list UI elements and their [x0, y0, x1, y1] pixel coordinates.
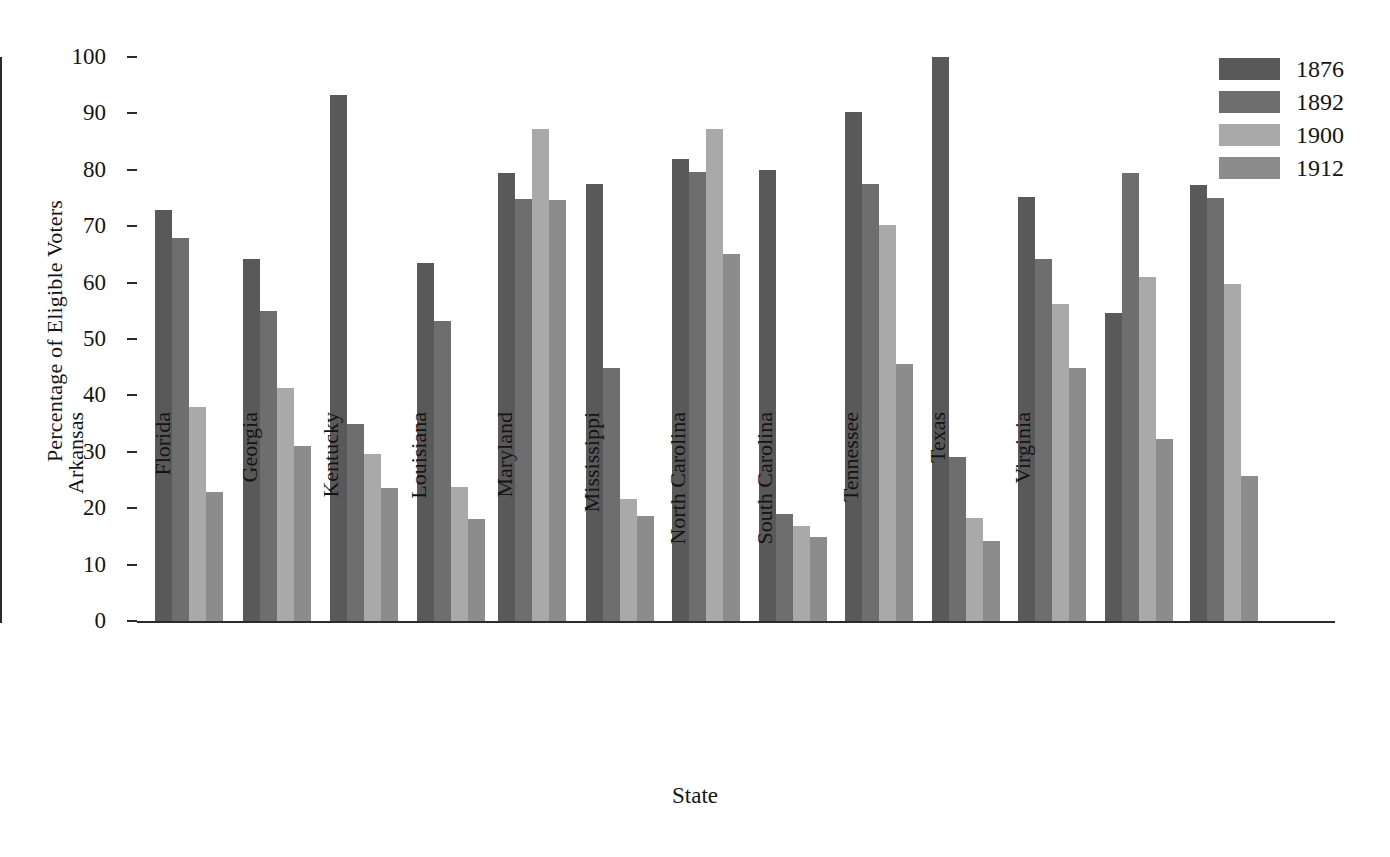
bar-chart-figure: Percentage of Eligible Voters 0102030405… — [0, 0, 1390, 857]
y-tick-mark — [127, 507, 137, 509]
bar — [603, 368, 620, 621]
legend-item: 1900 — [1219, 118, 1344, 151]
bar — [1224, 284, 1241, 621]
x-axis-label: Louisiana — [408, 412, 430, 632]
legend-color-swatch — [1219, 124, 1280, 146]
legend-label: 1900 — [1296, 123, 1344, 147]
bar — [810, 537, 827, 621]
legend-label: 1912 — [1296, 156, 1344, 180]
x-axis-label: Kentucky — [320, 412, 342, 632]
x-axis-label: Arkansas — [65, 412, 87, 632]
bar — [793, 526, 810, 621]
bar — [1156, 439, 1173, 621]
y-tick-label: 80 — [20, 158, 106, 181]
y-tick-label: 70 — [20, 214, 106, 237]
x-axis-label: Georgia — [239, 412, 261, 632]
bar — [1190, 185, 1207, 621]
x-axis-label: Virginia — [1012, 412, 1034, 632]
x-axis-label: Maryland — [494, 412, 516, 632]
bar — [294, 446, 311, 621]
bar-group — [1105, 57, 1173, 621]
bar — [364, 454, 381, 622]
legend-color-swatch — [1219, 157, 1280, 179]
bar — [206, 492, 223, 621]
bar — [532, 129, 549, 621]
y-tick-label: 60 — [20, 271, 106, 294]
x-axis-label: Mississippi — [581, 412, 603, 632]
bar — [689, 172, 706, 621]
bar — [966, 518, 983, 621]
bar — [637, 516, 654, 621]
bar — [896, 364, 913, 621]
y-tick-label: 90 — [20, 101, 106, 124]
y-tick-mark — [127, 564, 137, 566]
bar — [620, 499, 637, 621]
bar — [1139, 277, 1156, 621]
y-tick-mark — [127, 394, 137, 396]
legend-item: 1892 — [1219, 85, 1344, 118]
y-tick-label: 20 — [20, 496, 106, 519]
plot-area — [137, 57, 1335, 621]
y-tick-mark — [127, 282, 137, 284]
bar — [862, 184, 879, 621]
y-tick-label: 100 — [20, 45, 106, 68]
y-tick-mark — [127, 112, 137, 114]
bar — [1105, 313, 1122, 621]
y-tick-label: 10 — [20, 553, 106, 576]
x-axis-label: Tennessee — [840, 412, 862, 632]
bar — [879, 225, 896, 621]
y-tick-mark — [127, 169, 137, 171]
bar — [451, 487, 468, 621]
x-axis-label: Florida — [152, 412, 174, 632]
bar — [189, 407, 206, 621]
x-axis-label: North Carolina — [667, 412, 689, 632]
x-axis-line — [137, 621, 1335, 623]
y-tick-mark — [127, 620, 137, 622]
bar — [1052, 304, 1069, 621]
bar — [1069, 368, 1086, 621]
bar — [776, 514, 793, 621]
bar — [277, 388, 294, 621]
legend-color-swatch — [1219, 91, 1280, 113]
bar — [1035, 259, 1052, 621]
y-axis-line — [0, 57, 2, 623]
bar — [723, 254, 740, 621]
y-tick-label: 0 — [20, 609, 106, 632]
x-axis-title: State — [0, 783, 1390, 809]
y-tick-label: 40 — [20, 383, 106, 406]
bar — [1241, 476, 1258, 621]
legend-label: 1876 — [1296, 57, 1344, 81]
bar — [381, 488, 398, 621]
bar — [983, 541, 1000, 621]
bar — [347, 424, 364, 621]
x-axis-label: Texas — [927, 412, 949, 632]
bar — [1207, 198, 1224, 621]
legend-label: 1892 — [1296, 90, 1344, 114]
legend-item: 1912 — [1219, 151, 1344, 184]
bar — [515, 199, 532, 621]
y-tick-mark — [127, 56, 137, 58]
bar — [260, 311, 277, 621]
y-tick-label: 50 — [20, 327, 106, 350]
bar — [1122, 173, 1139, 621]
y-tick-mark — [127, 225, 137, 227]
bar — [949, 457, 966, 621]
legend-color-swatch — [1219, 58, 1280, 80]
y-tick-mark — [127, 451, 137, 453]
bar — [549, 200, 566, 621]
legend-item: 1876 — [1219, 52, 1344, 85]
bar — [706, 129, 723, 621]
y-tick-mark — [127, 338, 137, 340]
x-axis-label: South Carolina — [754, 412, 776, 632]
bar — [434, 321, 451, 621]
bar — [468, 519, 485, 621]
chart-legend: 1876189219001912 — [1219, 52, 1344, 184]
